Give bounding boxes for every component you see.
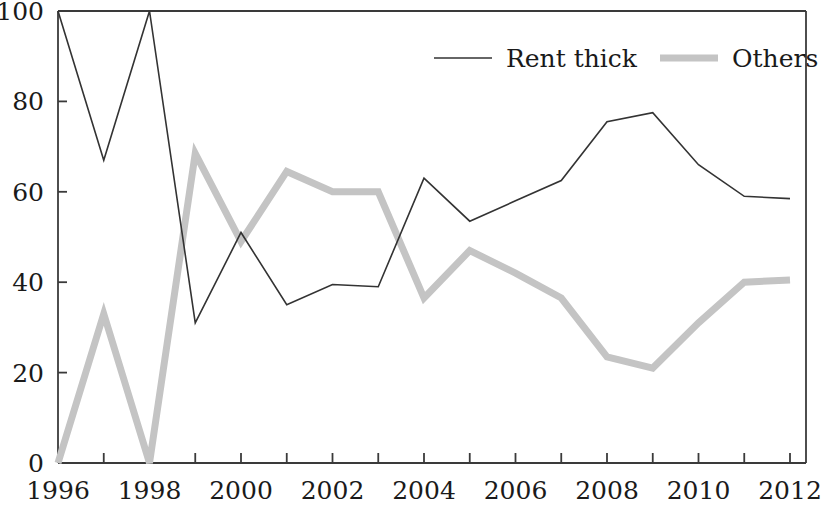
y-tick-label: 100: [0, 0, 44, 26]
legend-label-rent-thick: Rent thick: [506, 44, 638, 73]
x-tick-label: 1996: [26, 476, 90, 505]
x-tick-label: 2006: [484, 476, 548, 505]
series-line-others: [58, 153, 790, 463]
x-tick-label: 2012: [758, 476, 821, 505]
legend-label-others: Others: [732, 44, 818, 73]
series-lines: [58, 11, 790, 463]
x-tick-label: 2000: [209, 476, 273, 505]
x-axis-tick-labels: 199619982000200220042006200820102012: [26, 476, 821, 505]
x-tick-label: 2004: [392, 476, 456, 505]
x-tick-label: 2002: [301, 476, 365, 505]
plot-frame: [58, 11, 806, 463]
y-tick-label: 80: [12, 87, 44, 116]
y-tick-label: 20: [12, 359, 44, 388]
x-tick-label: 2008: [575, 476, 639, 505]
y-tick-label: 0: [28, 449, 44, 478]
x-axis-ticks: [58, 453, 790, 463]
x-tick-label: 2010: [667, 476, 731, 505]
y-tick-label: 40: [12, 268, 44, 297]
chart-legend: Rent thickOthers: [434, 44, 818, 73]
line-chart: 020406080100 199619982000200220042006200…: [0, 0, 821, 509]
y-axis-tick-labels: 020406080100: [0, 0, 44, 478]
x-tick-label: 1998: [118, 476, 182, 505]
chart-container: 020406080100 199619982000200220042006200…: [0, 0, 821, 509]
y-axis-ticks: [58, 101, 67, 372]
y-tick-label: 60: [12, 178, 44, 207]
